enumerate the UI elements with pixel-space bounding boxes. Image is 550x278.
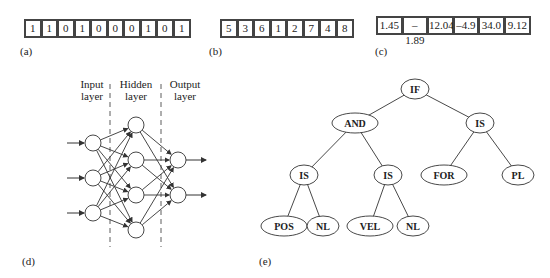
tree-node-label: IS: [383, 170, 393, 181]
connection-arrow: [100, 128, 127, 139]
tree-node-label: IS: [475, 118, 485, 129]
layer-sub: layer: [174, 90, 196, 102]
layer-name: Input: [80, 78, 103, 90]
tree-node-label: IF: [410, 84, 420, 95]
layer-sub: layer: [81, 90, 103, 102]
connection-arrow: [98, 167, 130, 207]
connection-arrow: [98, 132, 130, 172]
tree-node-label: POS: [274, 221, 294, 232]
layer-sub: layer: [125, 90, 147, 102]
neuron: [85, 170, 101, 186]
neuron: [128, 187, 144, 203]
layer-label-hidden: Hidden layer: [113, 78, 159, 102]
connection-arrow: [97, 133, 133, 206]
neuron: [128, 152, 144, 168]
neuron: [85, 135, 101, 151]
connection-arrow: [100, 216, 127, 227]
neuron: [128, 222, 144, 238]
tree-node-label: PL: [512, 170, 525, 181]
layer-name: Hidden: [120, 78, 152, 90]
neuron: [170, 187, 186, 203]
neuron: [170, 152, 186, 168]
tree-node-label: NL: [406, 221, 420, 232]
layer-label-input: Input layer: [72, 78, 112, 102]
tree-node-label: FOR: [433, 170, 455, 181]
neuron: [128, 117, 144, 133]
layer-label-output: Output layer: [162, 78, 208, 102]
tree-node-label: IS: [299, 170, 309, 181]
panel-label-d: (d): [22, 255, 35, 267]
connection-arrow: [142, 166, 171, 190]
tree-node-label: NL: [316, 221, 330, 232]
neural-network: [67, 84, 206, 247]
neuron: [85, 205, 101, 221]
layer-name: Output: [170, 78, 201, 90]
tree-node-label: VEL: [360, 221, 381, 232]
diagram-canvas: IFANDISISISFORPLPOSNLVELNL: [0, 0, 550, 278]
expression-tree: IFANDISISISFORPLPOSNLVELNL: [261, 79, 534, 236]
connection-arrow: [142, 165, 171, 189]
tree-node-label: AND: [344, 118, 366, 129]
panel-label-e: (e): [259, 255, 271, 267]
